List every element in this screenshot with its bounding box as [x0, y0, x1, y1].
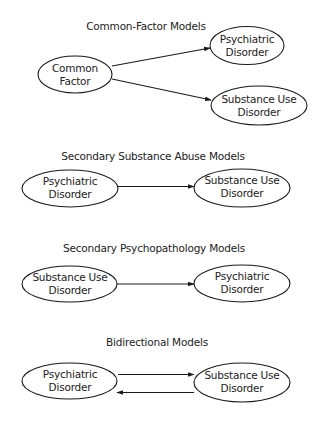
node-label-line: Disorder: [221, 106, 296, 119]
node-label-line: Disorder: [43, 188, 98, 201]
node-label-line: Psychiatric: [215, 270, 270, 283]
model-title-secondary-substance-abuse: Secondary Substance Abuse Models: [61, 150, 245, 162]
node-label-psychiatric-disorder: Psychiatric Disorder: [215, 270, 270, 296]
node-label-line: Disorder: [43, 381, 98, 394]
node-label-substance-use-disorder: Substance Use Disorder: [221, 93, 296, 119]
node-label-line: Common: [52, 62, 98, 75]
model-title-common-factor: Common-Factor Models: [86, 20, 206, 32]
node-label-line: Psychiatric: [43, 175, 98, 188]
node-label-psychiatric-disorder: Psychiatric Disorder: [43, 368, 98, 394]
node-label-line: Psychiatric: [220, 33, 275, 46]
node-label-substance-use-disorder: Substance Use Disorder: [204, 174, 279, 200]
node-label-line: Disorder: [32, 284, 107, 297]
arrow-cf-to-pd: [112, 48, 210, 66]
node-label-line: Substance Use: [204, 174, 279, 187]
node-label-line: Substance Use: [32, 271, 107, 284]
node-label-line: Factor: [52, 75, 98, 88]
node-label-line: Substance Use: [204, 369, 279, 382]
node-label-substance-use-disorder: Substance Use Disorder: [32, 271, 107, 297]
node-label-line: Disorder: [204, 382, 279, 395]
node-label-substance-use-disorder: Substance Use Disorder: [204, 369, 279, 395]
node-label-common-factor: Common Factor: [52, 62, 98, 88]
arrow-cf-to-sud: [112, 79, 211, 100]
node-label-line: Psychiatric: [43, 368, 98, 381]
model-title-bidirectional: Bidirectional Models: [106, 336, 208, 348]
node-label-line: Disorder: [204, 187, 279, 200]
node-label-line: Substance Use: [221, 93, 296, 106]
diagram-canvas: [0, 0, 325, 423]
model-title-secondary-psychopathology: Secondary Psychopathology Models: [63, 242, 245, 254]
node-label-line: Disorder: [220, 46, 275, 59]
node-label-psychiatric-disorder: Psychiatric Disorder: [220, 33, 275, 59]
node-label-line: Disorder: [215, 283, 270, 296]
node-label-psychiatric-disorder: Psychiatric Disorder: [43, 175, 98, 201]
